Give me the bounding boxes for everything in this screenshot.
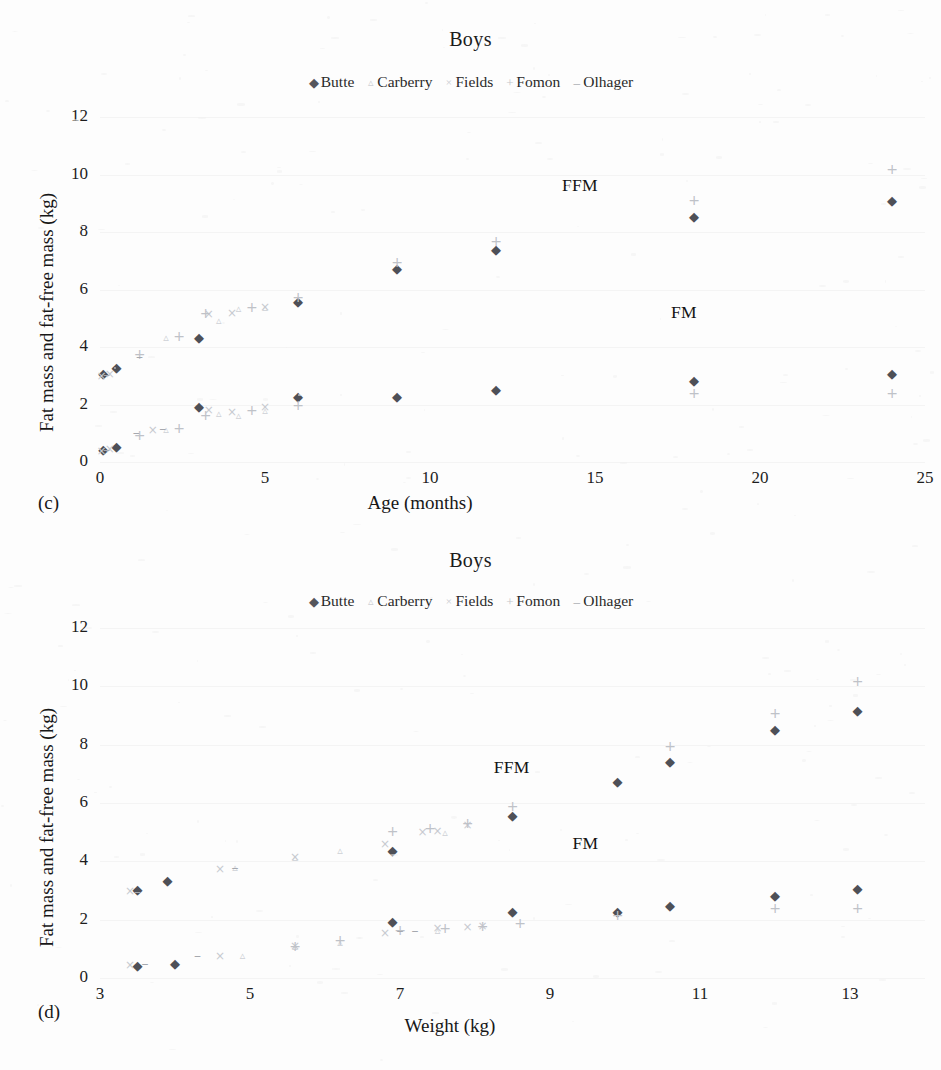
gridline-y-8 [100, 232, 925, 233]
scan-artifact [845, 368, 848, 370]
scan-artifact [822, 415, 830, 416]
x-marker-icon: × [442, 77, 455, 88]
scan-artifact [406, 451, 411, 453]
x-tick-label: 20 [740, 468, 780, 488]
data-point-fomon-fm: + [514, 916, 526, 930]
data-point-fields-ffm: × [204, 308, 214, 320]
x-tick-label: 11 [680, 984, 720, 1004]
legend-item-fomon[interactable]: +Fomon [503, 591, 560, 610]
data-point-fomon-ffm: + [664, 739, 676, 753]
scan-artifact [904, 664, 906, 666]
data-point-butte-fm: ◆ [508, 904, 518, 917]
legend-label-olhager: Olhager [583, 592, 633, 609]
data-point-fomon-fm: + [688, 386, 700, 400]
scan-artifact [929, 77, 931, 79]
scan-artifact [222, 322, 225, 325]
scan-artifact [739, 426, 744, 428]
legend-item-olhager[interactable]: –Olhager [570, 72, 633, 91]
legend-item-carberry[interactable]: ▵Carberry [364, 72, 432, 91]
scan-artifact [211, 916, 212, 918]
gridline-y-10 [100, 686, 925, 687]
data-point-carberry-ffm: ▵ [163, 331, 169, 342]
triangle-marker-icon: ▵ [364, 596, 377, 607]
gridline-y-6 [100, 803, 925, 804]
legend-item-fomon[interactable]: +Fomon [503, 72, 560, 91]
scan-artifact [46, 110, 50, 112]
panel-c-legend: ◆Butte▵Carberry×Fields+Fomon–Olhager [0, 72, 941, 91]
data-point-olhager-fm: – [142, 956, 149, 970]
legend-item-olhager[interactable]: –Olhager [570, 591, 633, 610]
data-point-butte-fm: ◆ [293, 389, 303, 402]
scan-artifact [432, 1012, 439, 1014]
legend-item-fields[interactable]: ×Fields [442, 591, 493, 610]
data-point-butte-fm: ◆ [613, 904, 623, 917]
scan-artifact [263, 602, 268, 603]
scan-artifact [620, 462, 627, 464]
legend-label-fomon: Fomon [516, 592, 560, 609]
legend-label-fields: Fields [455, 592, 493, 609]
panel-c-plot-area: 0246810120510152025◆◆◆◆◆◆◆◆◆◆◆◆◆◆◆◆▵▵▵▵▵… [100, 117, 925, 462]
scan-artifact [370, 19, 377, 21]
data-point-fields-ffm: × [462, 819, 472, 831]
data-point-fomon-ffm: + [134, 347, 146, 361]
scan-artifact [380, 1059, 383, 1060]
scan-artifact [101, 73, 107, 75]
legend-item-butte[interactable]: ◆Butte [308, 591, 355, 610]
scan-artifact [841, 35, 844, 37]
y-tick-label: 4 [54, 336, 88, 356]
scan-artifact [768, 673, 771, 674]
scan-artifact [14, 585, 22, 587]
scan-artifact [623, 566, 631, 569]
legend-item-butte[interactable]: ◆Butte [308, 72, 355, 91]
scan-artifact [58, 645, 63, 646]
scan-artifact [138, 559, 145, 561]
y-tick-label: 2 [54, 394, 88, 414]
scan-artifact [847, 478, 854, 479]
data-point-carberry-ffm: ▵ [232, 862, 238, 873]
legend-item-fields[interactable]: ×Fields [442, 72, 493, 91]
data-point-butte-fm: ◆ [491, 382, 501, 395]
data-point-fomon-fm: + [134, 428, 146, 442]
gridline-y-0 [100, 978, 925, 979]
x-tick-label: 13 [830, 984, 870, 1004]
data-point-fields-fm: × [462, 921, 472, 933]
data-point-fomon-ffm: + [173, 329, 185, 343]
scan-artifact [535, 771, 540, 772]
scan-artifact [814, 820, 820, 821]
scan-artifact [299, 184, 303, 185]
scan-artifact [166, 510, 168, 511]
y-tick-label: 8 [54, 734, 88, 754]
scan-artifact [673, 456, 678, 457]
data-point-fomon-fm: + [852, 901, 864, 915]
data-point-carberry-fm: ▵ [435, 924, 441, 935]
data-point-fomon-ffm: + [769, 706, 781, 720]
scan-artifact [810, 894, 813, 896]
scan-artifact [317, 981, 323, 984]
data-point-fields-ffm: × [97, 370, 107, 382]
x-tick-label: 7 [380, 984, 420, 1004]
data-point-fomon-ffm: + [387, 824, 399, 838]
gridline-y-12 [100, 628, 925, 629]
scan-artifact [256, 910, 263, 912]
gridline-y-12 [100, 117, 925, 118]
data-point-butte-fm: ◆ [770, 888, 780, 901]
scan-artifact [853, 694, 858, 697]
data-point-olhager-fm: – [194, 948, 201, 962]
scan-artifact [95, 425, 101, 427]
scan-artifact [669, 940, 675, 941]
data-point-fields-fm: × [215, 950, 225, 962]
x-tick-label: 5 [245, 468, 285, 488]
gridline-y-4 [100, 347, 925, 348]
data-point-fomon-ffm: + [391, 255, 403, 269]
gridline-y-0 [100, 462, 925, 463]
scan-artifact [340, 312, 341, 315]
panel-d-legend: ◆Butte▵Carberry×Fields+Fomon–Olhager [0, 591, 941, 610]
scan-artifact [851, 804, 857, 806]
panel-c-title: Boys [0, 28, 941, 51]
scan-artifact [413, 731, 419, 732]
scan-artifact [772, 1002, 778, 1005]
legend-item-carberry[interactable]: ▵Carberry [364, 591, 432, 610]
legend-label-carberry: Carberry [377, 592, 432, 609]
scan-artifact [919, 186, 926, 189]
scan-artifact [224, 715, 232, 717]
